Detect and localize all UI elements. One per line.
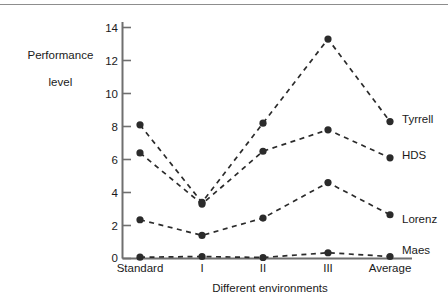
data-point bbox=[324, 126, 331, 133]
data-point bbox=[198, 200, 205, 207]
data-point bbox=[198, 253, 205, 260]
series-lorenz bbox=[136, 179, 393, 239]
data-point bbox=[136, 121, 143, 128]
data-point bbox=[259, 120, 266, 127]
plot-area bbox=[0, 0, 448, 303]
series-tyrrell bbox=[136, 35, 393, 206]
data-point bbox=[198, 232, 205, 239]
data-point bbox=[324, 35, 331, 42]
data-point bbox=[386, 154, 393, 161]
data-point bbox=[324, 249, 331, 256]
y-axis-ticks bbox=[123, 28, 132, 259]
data-point bbox=[136, 216, 143, 223]
data-point bbox=[136, 149, 143, 156]
chart-figure: Performance level 14 12 10 8 6 4 2 0 Sta… bbox=[0, 0, 448, 303]
data-point bbox=[324, 179, 331, 186]
data-point bbox=[136, 254, 143, 261]
data-point bbox=[259, 214, 266, 221]
data-series-layer bbox=[136, 35, 393, 261]
data-point bbox=[259, 148, 266, 155]
axis-spines bbox=[123, 22, 413, 259]
data-point bbox=[386, 253, 393, 260]
data-point bbox=[386, 118, 393, 125]
series-hds bbox=[136, 126, 393, 207]
series-line bbox=[140, 183, 390, 236]
series-line bbox=[140, 130, 390, 204]
data-point bbox=[386, 211, 393, 218]
data-point bbox=[259, 254, 266, 261]
